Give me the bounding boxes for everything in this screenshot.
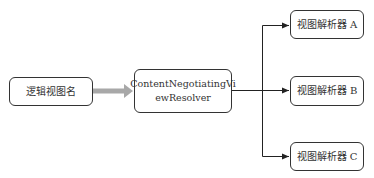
arrow-to-resolver-c [263,90,290,157]
node-label: 视图解析器 A [297,18,357,32]
node-view-resolver-a: 视图解析器 A [290,10,364,39]
node-logical-view-name: 逻辑视图名 [9,77,93,106]
node-label-line-2: ewResolver [130,91,236,105]
node-label-line-1: ContentNegotiatingVi [130,77,236,91]
node-view-resolver-c: 视图解析器 C [290,142,364,171]
node-label: 视图解析器 C [297,150,358,164]
branch-connectors [232,26,289,157]
node-label: 视图解析器 B [297,84,358,98]
node-content-negotiating-view-resolver: ContentNegotiatingVi ewResolver [134,69,232,113]
thick-arrow-input-to-resolver [93,84,133,98]
node-view-resolver-b: 视图解析器 B [290,76,364,106]
node-label: 逻辑视图名 [26,85,76,99]
